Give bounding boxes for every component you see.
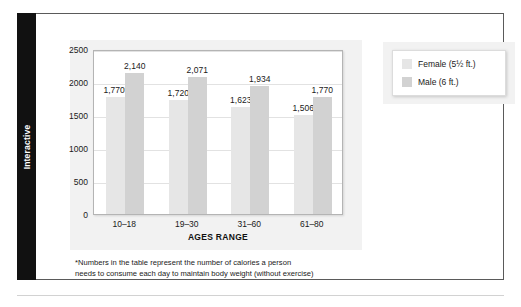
- bar-value-label: 1,934: [249, 74, 270, 84]
- bar-value-label: 1,720: [168, 88, 189, 98]
- y-axis-tick-label: 1000: [48, 144, 88, 154]
- legend-item-label: Male (6 ft.): [418, 77, 459, 87]
- footnote-line-2: needs to consume each day to maintain bo…: [75, 268, 375, 279]
- x-axis-tick-label: 10–18: [112, 219, 136, 229]
- y-axis-tick-label: 1500: [48, 111, 88, 121]
- bar-male[interactable]: 2,071: [188, 77, 207, 214]
- y-axis-tick-label: 2000: [48, 78, 88, 88]
- bar-female[interactable]: 1,506: [294, 115, 313, 214]
- chart-footnote: *Numbers in the table represent the numb…: [75, 257, 375, 279]
- legend-swatch-male: [402, 77, 412, 87]
- plot-area: 1,770*2,1401,7202,0711,6231,9341,5061,77…: [93, 50, 343, 215]
- chart-legend: Female (5½ ft.)Male (6 ft.): [392, 50, 506, 96]
- bar-value-label: 1,770: [312, 85, 333, 95]
- bar-value-label: 2,071: [187, 65, 208, 75]
- bar-group: 1,6231,934: [231, 51, 269, 214]
- figure-frame: 05001000150020002500 1,770*2,1401,7202,0…: [17, 13, 504, 280]
- interactive-tab-label: Interactive: [22, 124, 32, 169]
- x-axis-tick-label: 61–80: [300, 219, 324, 229]
- x-axis-tick-label: 31–60: [237, 219, 261, 229]
- x-axis-title: AGES RANGE: [93, 232, 343, 242]
- legend-item[interactable]: Male (6 ft.): [402, 75, 505, 88]
- page-divider: [17, 295, 504, 296]
- x-axis-tick-label: 19–30: [175, 219, 199, 229]
- plot-wrap: 1,770*2,1401,7202,0711,6231,9341,5061,77…: [93, 50, 343, 215]
- footnote-line-1: *Numbers in the table represent the numb…: [75, 257, 375, 268]
- bar-group: 1,7202,071: [169, 51, 207, 214]
- bar-value-label: 1,623: [230, 95, 251, 105]
- y-axis-tick-label: 500: [48, 177, 88, 187]
- bar-female[interactable]: 1,770*: [106, 97, 125, 214]
- legend-item-label: Female (5½ ft.): [418, 59, 476, 69]
- bar-female[interactable]: 1,720: [169, 100, 188, 214]
- bar-male[interactable]: 2,140: [125, 73, 144, 214]
- legend-swatch-female: [402, 59, 412, 69]
- y-axis-tick-label: 0: [48, 210, 88, 220]
- bar-male[interactable]: 1,770: [313, 97, 332, 214]
- bar-female[interactable]: 1,623: [231, 107, 250, 214]
- bar-series-container: 1,770*2,1401,7202,0711,6231,9341,5061,77…: [94, 51, 342, 214]
- bar-male[interactable]: 1,934: [250, 86, 269, 214]
- y-axis-tick-label: 2500: [48, 45, 88, 55]
- bar-group: 1,770*2,140: [106, 51, 144, 214]
- bar-value-label: 1,506: [293, 103, 314, 113]
- legend-item[interactable]: Female (5½ ft.): [402, 57, 505, 70]
- interactive-tab[interactable]: Interactive: [17, 13, 36, 280]
- x-axis-tick-labels: 10–1819–3031–6061–80: [93, 219, 343, 231]
- bar-group: 1,5061,770: [294, 51, 332, 214]
- bar-value-label: 2,140: [124, 61, 145, 71]
